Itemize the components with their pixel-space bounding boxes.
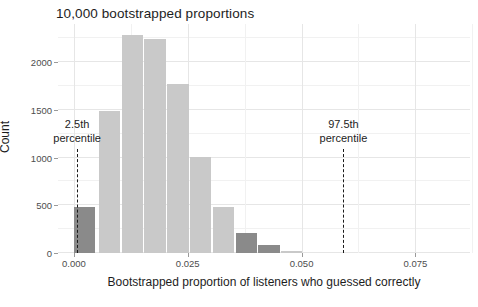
gridline-vertical	[302, 24, 303, 253]
plot-panel	[58, 24, 470, 253]
y-axis-label: Count	[0, 121, 12, 153]
gridline-horizontal	[58, 61, 470, 62]
y-tick-label: 0	[47, 248, 52, 259]
y-tick-label: 2000	[31, 57, 52, 68]
gridline-vertical-minor	[245, 24, 246, 253]
x-tick-label: 0.000	[62, 258, 86, 269]
lower-percentile-label-line2: percentile	[53, 131, 101, 145]
x-tick-mark	[415, 253, 416, 257]
y-tick-mark	[54, 205, 58, 206]
gridline-vertical	[415, 24, 416, 253]
histogram-bar	[236, 233, 257, 254]
gridline-horizontal	[58, 109, 470, 110]
y-tick-mark	[54, 253, 58, 254]
histogram-bar	[213, 207, 234, 253]
y-tick-mark	[54, 62, 58, 63]
histogram-bar	[122, 35, 143, 254]
upper-percentile-label-line1: 97.5th	[328, 118, 359, 130]
x-tick-label: 0.075	[403, 258, 427, 269]
upper-percentile-label: 97.5thpercentile	[320, 117, 368, 145]
x-tick-mark	[302, 253, 303, 257]
y-tick-label: 1000	[31, 152, 52, 163]
lower-percentile-label: 2.5thpercentile	[53, 117, 101, 145]
gridline-horizontal-minor	[58, 37, 470, 38]
x-tick-label: 0.025	[176, 258, 200, 269]
lower-percentile-label-line1: 2.5th	[65, 118, 89, 130]
gridline-horizontal-minor	[58, 85, 470, 86]
x-tick-mark	[188, 253, 189, 257]
y-tick-label: 500	[36, 200, 52, 211]
lower-percentile-line	[77, 149, 78, 253]
x-tick-label: 0.050	[290, 258, 314, 269]
y-axis-ticks: 0500100015002000	[20, 24, 52, 253]
histogram-bar	[144, 39, 165, 253]
histogram-bar	[281, 251, 302, 253]
x-axis-label: Bootstrapped proportion of listeners who…	[58, 275, 470, 289]
upper-percentile-label-line2: percentile	[320, 131, 368, 145]
histogram-bar	[99, 111, 120, 253]
y-tick-mark	[54, 110, 58, 111]
upper-percentile-line	[343, 149, 344, 253]
gridline-vertical-minor	[472, 24, 473, 253]
y-tick-label: 1500	[31, 104, 52, 115]
y-tick-mark	[54, 158, 58, 159]
chart-title: 10,000 bootstrapped proportions	[56, 6, 254, 21]
histogram-bar	[190, 157, 211, 253]
histogram-bar	[167, 84, 188, 253]
x-tick-mark	[74, 253, 75, 257]
chart-figure: 10,000 bootstrapped proportions 05001000…	[0, 0, 478, 307]
histogram-bar	[258, 245, 279, 253]
